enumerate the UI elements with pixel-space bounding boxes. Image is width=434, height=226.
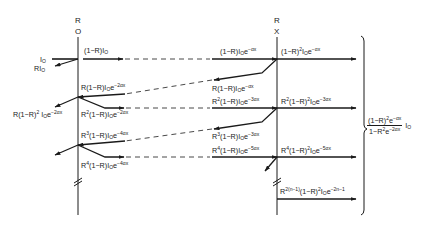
label-f3-at-x: R4(1−R)IOe−5αx [212, 146, 259, 155]
front-interface-label-r: R [75, 17, 81, 25]
back-interface-label-x: X [274, 28, 279, 36]
label-f2-at-x: R2(1−R)IOe−3αx [212, 97, 259, 106]
sum-expression: (1−R)2e−αx 1−R2e−2αx IO [367, 116, 411, 135]
front-interface-label-o: O [75, 28, 81, 36]
label-outn: R2(n−1)(1−R)2IOe−2n−1 [280, 187, 345, 196]
ray-diagram-lines [0, 0, 434, 226]
label-out1: (1−R)2IOe−αx [281, 47, 320, 56]
sum-numerator: (1−R)2e−αx [367, 116, 402, 126]
label-t1-at-x: (1−R)IOe−αx [220, 47, 256, 56]
label-out2: R2(1−R)2IOe−3αx [281, 97, 331, 106]
label-refl-out1: R(1−R)2 IOe−2αx [13, 110, 62, 119]
label-r2-front: R3(1−R)IOe−4αx [81, 131, 128, 140]
label-f2: R2(1−R)IOe−2αx [81, 110, 128, 119]
sum-factor: IO [405, 122, 411, 130]
back-interface-label-r: R [274, 17, 280, 25]
label-r1-back: R(1−R)IOe−αx [212, 84, 254, 93]
label-out3: R4(1−R)2IOe−5αx [281, 146, 331, 155]
label-t1: (1−R)IO [84, 47, 108, 55]
label-r1-front: R(1−R)IOe−2αx [81, 83, 125, 92]
sum-denominator: 1−R2e−2αx [368, 126, 401, 135]
label-f3: R4(1−R)IOe−4αx [81, 161, 128, 170]
label-r2-back: R3(1−R)IOe−3αx [212, 132, 259, 141]
reflected-incident-label: RIO [34, 65, 45, 73]
reflected-incident-ray [55, 59, 78, 66]
incident-label: IO [40, 56, 46, 64]
